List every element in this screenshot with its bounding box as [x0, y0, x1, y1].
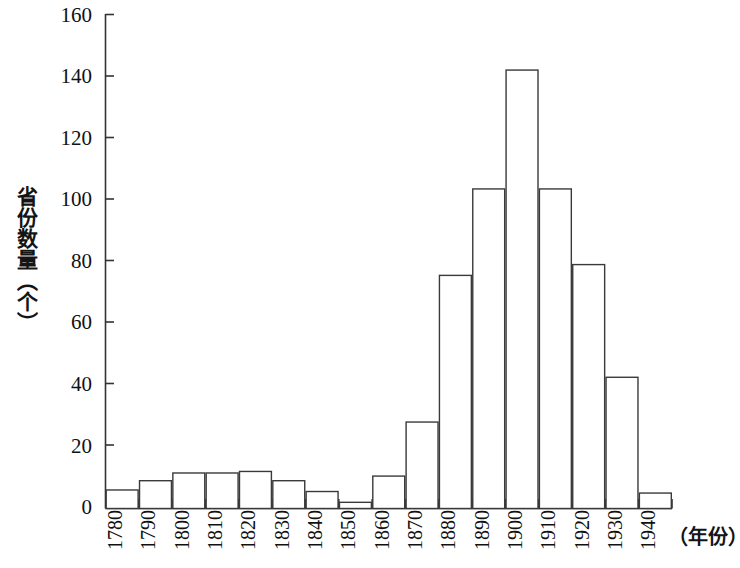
- x-tick-label: 1830: [272, 516, 306, 568]
- x-tick-label: 1880: [438, 516, 472, 568]
- x-tick-label: 1910: [538, 516, 572, 568]
- x-tick-label: 1920: [572, 516, 606, 568]
- x-tick-label: 1850: [338, 516, 372, 568]
- x-tick-label: 1890: [472, 516, 506, 568]
- x-axis-title: （年份）: [668, 521, 740, 550]
- x-tick-label: 1930: [605, 516, 639, 568]
- x-tick-label: 1840: [305, 516, 339, 568]
- x-tick-label: 1900: [505, 516, 539, 568]
- x-tick-label: 1860: [372, 516, 406, 568]
- x-tick-label: 1820: [238, 516, 272, 568]
- x-tick-label: 1790: [138, 516, 172, 568]
- x-tick-label: 1800: [172, 516, 206, 568]
- x-tick-label: 1810: [205, 516, 239, 568]
- x-tick-label: 1780: [105, 516, 139, 568]
- x-tick-label: 1870: [405, 516, 439, 568]
